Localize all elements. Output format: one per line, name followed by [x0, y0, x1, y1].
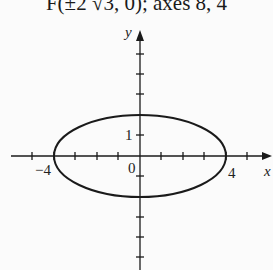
x-axis-label: x — [263, 163, 271, 179]
tick-label-neg4: −4 — [35, 162, 51, 178]
tick-label-y1: 1 — [125, 127, 133, 143]
y-axis-label: y — [123, 24, 132, 40]
y-axis — [136, 36, 144, 270]
y-axis-arrow-icon — [136, 30, 144, 41]
x-axis-arrow-icon — [262, 152, 272, 160]
tick-label-4: 4 — [228, 165, 236, 181]
origin-label: 0 — [128, 160, 136, 176]
ellipse-plot: y x −4 0 4 1 — [0, 0, 273, 270]
